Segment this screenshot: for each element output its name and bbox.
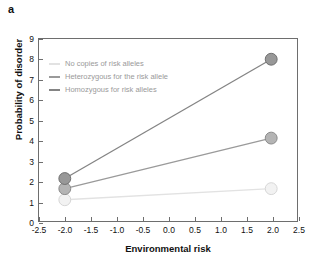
series-line	[65, 138, 271, 189]
x-tick-label: 1.5	[241, 225, 253, 235]
figure-panel-a: a Probability of disorder 0123456789 -2.…	[0, 0, 319, 263]
data-point-marker	[265, 183, 277, 195]
x-tick-label: 0.5	[189, 225, 201, 235]
x-tick-label: -2.5	[32, 225, 47, 235]
y-tick-label: 2	[29, 177, 34, 187]
x-axis-title: Environmental risk	[38, 243, 298, 254]
y-tick-label: 9	[29, 34, 34, 44]
y-tick-label: 1	[29, 198, 34, 208]
legend-line-swatch	[49, 89, 60, 91]
y-tick-label: 3	[29, 157, 34, 167]
legend: No copies of risk allelesHeterozygous fo…	[49, 59, 168, 94]
y-tick-label: 4	[29, 136, 34, 146]
data-point-marker	[265, 132, 277, 144]
legend-label: Homozygous for risk alleles	[65, 85, 157, 94]
legend-label: Heterozygous for the risk allele	[65, 72, 168, 81]
legend-item[interactable]: Homozygous for risk alleles	[49, 85, 168, 94]
data-point-marker	[59, 194, 71, 206]
x-tick-label: -2.0	[58, 225, 73, 235]
x-tick-label: 2.5	[293, 225, 305, 235]
y-tick-label: 5	[29, 116, 34, 126]
plot-area: 0123456789 -2.5-2.0-1.5-1.0-0.50.00.51.0…	[38, 38, 298, 222]
legend-item[interactable]: No copies of risk alleles	[49, 59, 168, 68]
legend-label: No copies of risk alleles	[65, 59, 144, 68]
x-tick-label: 1.0	[215, 225, 227, 235]
y-tick-label: 7	[29, 75, 34, 85]
panel-label: a	[8, 3, 14, 15]
y-tick-mark	[39, 223, 43, 224]
data-point-marker	[59, 173, 71, 185]
series-line	[65, 189, 271, 200]
data-point-marker	[265, 53, 277, 65]
x-tick-label: -1.0	[110, 225, 125, 235]
x-tick-label: -1.5	[84, 225, 99, 235]
legend-line-swatch	[49, 76, 60, 78]
legend-line-swatch	[49, 63, 60, 65]
y-axis-title: Probability of disorder	[13, 20, 24, 160]
y-tick-label: 8	[29, 54, 34, 64]
y-tick-label: 6	[29, 95, 34, 105]
x-tick-label: -0.5	[136, 225, 151, 235]
legend-item[interactable]: Heterozygous for the risk allele	[49, 72, 168, 81]
x-tick-label: 2.0	[267, 225, 279, 235]
x-tick-mark	[299, 217, 300, 221]
x-tick-label: 0.0	[163, 225, 175, 235]
